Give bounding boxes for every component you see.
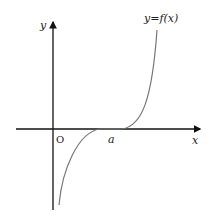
curve-f <box>59 30 157 205</box>
y-axis-label: y <box>39 19 47 32</box>
x-axis-label: x <box>192 134 199 147</box>
point-a-label: a <box>108 133 115 146</box>
origin-label: O <box>56 134 64 145</box>
curve-label: y=f(x) <box>143 12 178 25</box>
function-graph: y x O a y=f(x) <box>0 0 212 224</box>
